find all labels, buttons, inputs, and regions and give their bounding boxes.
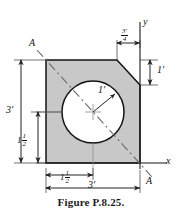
bottom-partial-fraction: 12 xyxy=(65,170,71,185)
chamfer-horizontal-fraction: 3'4 xyxy=(121,28,128,43)
figure-caption: Figure P.8.25. xyxy=(0,196,182,208)
dimension-label-bottom-overall: 3' xyxy=(88,180,95,190)
dimension-label-circle-radius: 1' xyxy=(98,85,105,95)
dimension-label-chamfer-horizontal: 3'4 xyxy=(121,26,128,43)
y-axis-label: y xyxy=(143,17,147,27)
figure-container: y x A A 3' 112 3' 112 3'4 1' 1' Figure P… xyxy=(0,0,182,220)
chamfer-horizontal-denominator: 4 xyxy=(121,36,128,43)
left-partial-fraction: 12 xyxy=(22,133,28,148)
section-label-a-bottom: A xyxy=(146,176,152,186)
section-label-a-top: A xyxy=(29,38,35,48)
dimension-label-left-overall: 3' xyxy=(6,105,13,115)
bottom-partial-denominator: 2 xyxy=(65,178,71,185)
dimension-label-bottom-partial: 112 xyxy=(60,168,70,185)
dimension-label-left-partial: 112 xyxy=(17,131,27,148)
dimension-label-chamfer-vertical: 1' xyxy=(157,65,164,75)
x-axis-label: x xyxy=(166,156,170,166)
left-partial-denominator: 2 xyxy=(22,141,28,148)
